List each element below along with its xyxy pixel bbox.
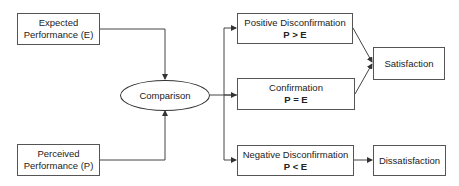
edge-positive-satisfaction <box>353 28 372 62</box>
edge-confirmation-satisfaction <box>355 64 372 94</box>
edge-expected-comparison <box>100 29 165 79</box>
positive-formula: P > E <box>283 29 306 41</box>
perceived-line1: Perceived <box>37 148 79 160</box>
perceived-line2: Performance (P) <box>24 160 94 172</box>
expected-line2: Performance (E) <box>24 29 94 41</box>
node-satisfaction: Satisfaction <box>373 47 445 80</box>
expected-line1: Expected <box>39 17 79 29</box>
satisfaction-label: Satisfaction <box>384 58 433 70</box>
confirmation-label: Confirmation <box>269 82 323 94</box>
node-comparison: Comparison <box>120 80 210 111</box>
edge-perceived-comparison <box>100 111 165 160</box>
node-confirmation: Confirmation P = E <box>237 78 355 110</box>
dissatisfaction-label: Dissatisfaction <box>379 155 440 167</box>
node-expected-performance: Expected Performance (E) <box>17 13 100 45</box>
node-perceived-performance: Perceived Performance (P) <box>17 144 100 176</box>
node-negative-disconfirmation: Negative Disconfirmation P < E <box>237 145 354 176</box>
node-positive-disconfirmation: Positive Disconfirmation P > E <box>237 13 353 44</box>
comparison-label: Comparison <box>139 90 190 102</box>
negative-label: Negative Disconfirmation <box>243 149 349 161</box>
node-dissatisfaction: Dissatisfaction <box>373 145 446 176</box>
confirmation-formula: P = E <box>284 94 307 106</box>
negative-formula: P < E <box>284 161 307 173</box>
positive-label: Positive Disconfirmation <box>244 17 345 29</box>
